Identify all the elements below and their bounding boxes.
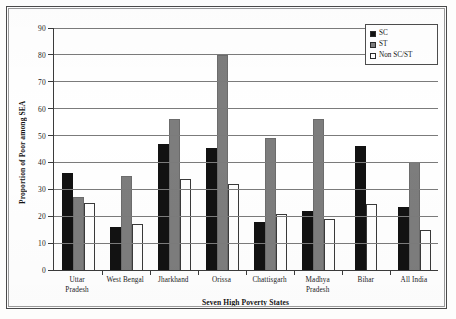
label-line: Bihar [342, 275, 390, 285]
bar [62, 173, 73, 270]
gridline [54, 189, 438, 190]
x-axis-category-label: MadhyaPradesh [294, 275, 342, 295]
bar [169, 119, 180, 270]
label-line: All India [390, 275, 438, 285]
x-axis-category-label: West Bengal [101, 275, 149, 295]
y-axis-tick-label: 70 [38, 77, 46, 86]
x-axis-category-labels: UttarPradeshWest BengalJharkhandOrissaCh… [53, 275, 438, 295]
bar [254, 222, 265, 270]
bar [366, 204, 377, 270]
bar-group [198, 28, 246, 270]
y-axis-tick-label: 0 [42, 266, 46, 275]
y-axis-tick-label: 60 [38, 104, 46, 113]
bar-group [102, 28, 150, 270]
gridline [54, 243, 438, 244]
label-line: Jharkhand [149, 275, 197, 285]
bar [302, 211, 313, 270]
bar [110, 227, 121, 270]
x-axis-category-label: Bihar [342, 275, 390, 295]
bar [84, 203, 95, 270]
bar-group [54, 28, 102, 270]
label-line: Madhya [294, 275, 342, 285]
gridline [54, 162, 438, 163]
legend-swatch-non [370, 53, 376, 59]
bar-group [150, 28, 198, 270]
y-axis-tick [48, 28, 54, 29]
bar [355, 146, 366, 270]
legend-label: ST [379, 39, 387, 50]
legend-item[interactable]: Non SC/ST [370, 50, 433, 61]
bar [206, 148, 217, 270]
y-axis-tick-label: 90 [38, 24, 46, 33]
label-line: West Bengal [101, 275, 149, 285]
bar [121, 176, 132, 270]
legend-item[interactable]: SC [370, 28, 433, 39]
label-line: Uttar [53, 275, 101, 285]
bar [73, 197, 84, 270]
label-line: Orissa [197, 275, 245, 285]
y-axis-tick-label: 40 [38, 158, 46, 167]
y-axis-tick-label: 20 [38, 212, 46, 221]
label-line: Chattisgarh [246, 275, 294, 285]
gridline [54, 216, 438, 217]
y-axis-title: Proportion of Poor among SEA [15, 67, 29, 237]
bar [265, 138, 276, 270]
legend-label: Non SC/ST [379, 50, 412, 61]
bar [132, 224, 143, 270]
y-axis-tick [48, 243, 54, 244]
y-axis-tick [48, 216, 54, 217]
y-axis-tick-label: 30 [38, 185, 46, 194]
bar [180, 179, 191, 270]
legend-swatch-st [370, 42, 376, 48]
bar [420, 230, 431, 270]
bar [324, 219, 335, 270]
x-axis-category-label: Jharkhand [149, 275, 197, 295]
x-axis-category-label: UttarPradesh [53, 275, 101, 295]
y-axis-tick [48, 135, 54, 136]
x-axis-category-label: Orissa [197, 275, 245, 295]
chart-screenshot: Proportion of Poor among SEA 01020304050… [0, 0, 456, 319]
y-axis-tick [48, 270, 54, 271]
y-axis-tick [48, 189, 54, 190]
label-line: Pradesh [294, 285, 342, 295]
legend-swatch-sc [370, 31, 376, 37]
bar-group [246, 28, 294, 270]
bar [228, 184, 239, 270]
x-axis-title: Seven High Poverty States [53, 298, 438, 307]
y-axis-tick [48, 81, 54, 82]
gridline [54, 135, 438, 136]
label-line: Pradesh [53, 285, 101, 295]
figure-frame: Proportion of Poor among SEA 01020304050… [6, 6, 447, 309]
y-axis-tick [48, 108, 54, 109]
chart-legend: SCSTNon SC/ST [365, 24, 438, 65]
y-axis-tick-label: 50 [38, 131, 46, 140]
legend-item[interactable]: ST [370, 39, 433, 50]
y-axis-tick-label: 80 [38, 50, 46, 59]
y-axis-tick-label: 10 [38, 239, 46, 248]
y-axis-tick [48, 54, 54, 55]
y-axis-tick [48, 162, 54, 163]
x-axis-category-label: Chattisgarh [246, 275, 294, 295]
x-axis-category-label: All India [390, 275, 438, 295]
gridline [54, 108, 438, 109]
bar [313, 119, 324, 270]
bar-group [294, 28, 342, 270]
gridline [54, 81, 438, 82]
legend-label: SC [379, 28, 388, 39]
